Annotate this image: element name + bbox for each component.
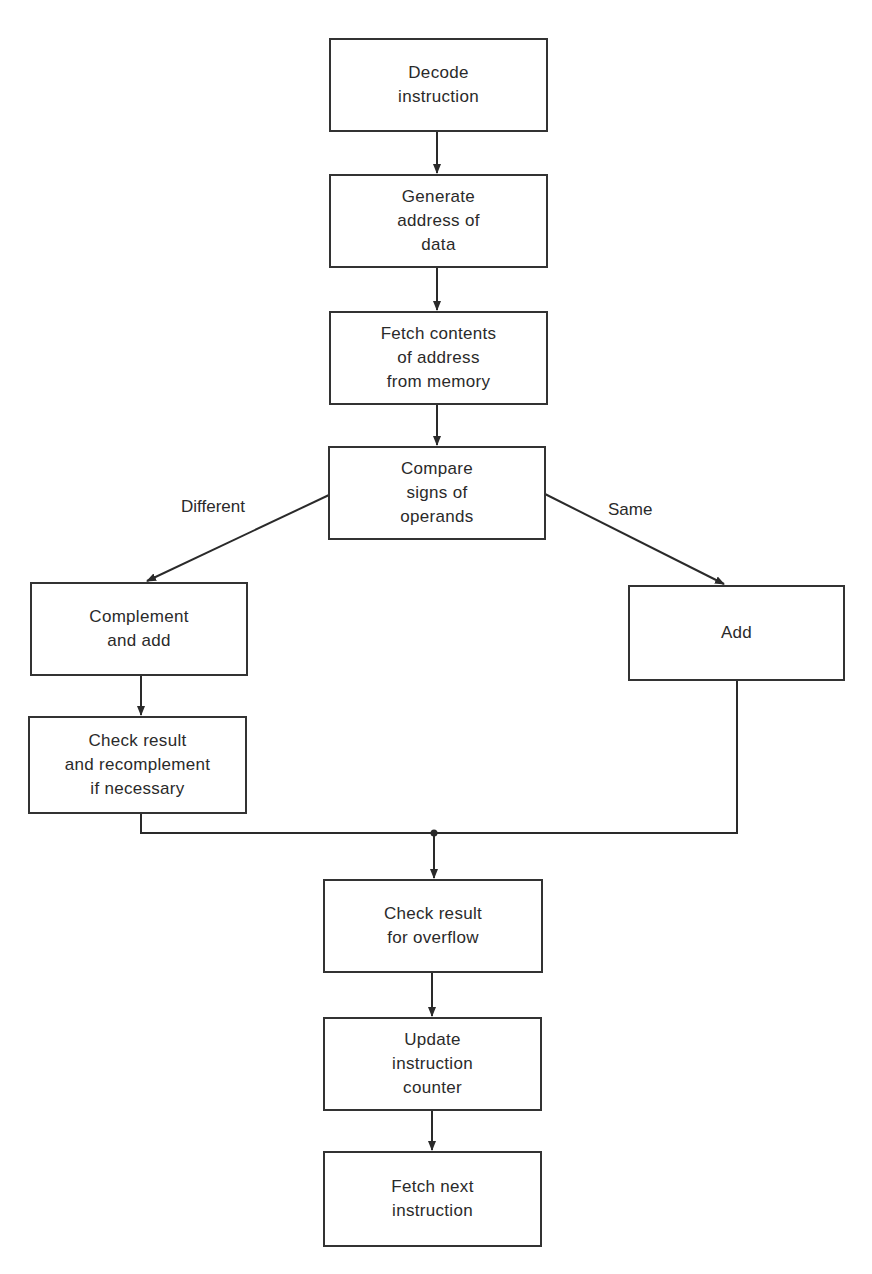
node-label: Decode instruction [398,61,479,109]
node-label: Fetch contents of address from memory [381,322,497,394]
node-generate-address: Generate address of data [329,174,548,268]
node-check-overflow: Check result for overflow [323,879,543,973]
node-fetch-next-instruction: Fetch next instruction [323,1151,542,1247]
node-label: Add [721,621,752,645]
node-fetch-contents: Fetch contents of address from memory [329,311,548,405]
node-decode-instruction: Decode instruction [329,38,548,132]
node-label: Compare signs of operands [400,457,473,529]
node-label: Complement and add [89,605,188,653]
edge-label-same: Same [608,500,652,520]
node-label: Generate address of data [397,185,479,257]
node-update-counter: Update instruction counter [323,1017,542,1111]
node-complement-and-add: Complement and add [30,582,248,676]
node-label: Check result for overflow [384,902,482,950]
node-label: Check result and recomplement if necessa… [65,729,211,801]
node-label: Update instruction counter [392,1028,473,1100]
node-add: Add [628,585,845,681]
junction-dot [431,830,438,837]
edge-label-different: Different [181,497,245,517]
node-compare-signs: Compare signs of operands [328,446,546,540]
node-check-and-recomplement: Check result and recomplement if necessa… [28,716,247,814]
node-label: Fetch next instruction [391,1175,473,1223]
